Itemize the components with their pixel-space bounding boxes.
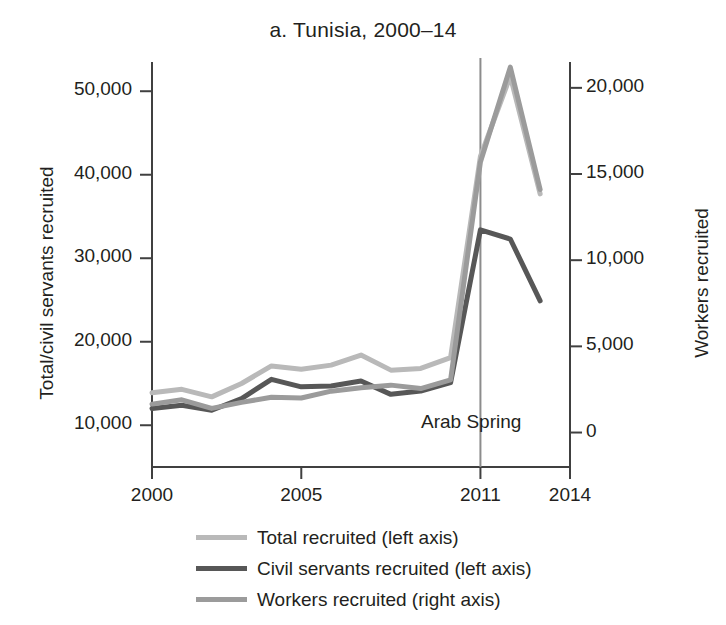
data-series-lines [152,67,540,410]
series-line-2 [152,67,540,408]
y-tick-label-left-1: 20,000 [12,329,132,351]
legend-item-2[interactable]: Workers recruited (right axis) [0,584,726,615]
y-tick-label-left-3: 40,000 [12,162,132,184]
series-line-1 [152,230,540,410]
legend-swatch-0 [196,535,247,540]
annotation-arab-spring-label: Arab Spring [421,411,521,433]
y-tick-label-right-4: 20,000 [586,75,706,97]
x-tick-label-3: 2014 [510,484,630,506]
y-tick-label-right-2: 10,000 [586,247,706,269]
legend-label-2: Workers recruited (right axis) [257,589,501,611]
y-tick-label-right-0: 0 [586,420,706,442]
chart-figure: a. Tunisia, 2000–14 Total/civil servants… [0,0,726,625]
legend-swatch-1 [196,566,247,571]
x-tick-label-1: 2005 [241,484,361,506]
y-tick-label-right-1: 5,000 [586,333,706,355]
y-tick-label-left-4: 50,000 [12,78,132,100]
y-tick-label-left-0: 10,000 [12,412,132,434]
legend-label-0: Total recruited (left axis) [257,527,459,549]
y-tick-label-right-3: 15,000 [586,161,706,183]
series-line-0 [152,76,540,397]
legend-item-1[interactable]: Civil servants recruited (left axis) [0,553,726,584]
x-tick-label-0: 2000 [92,484,212,506]
legend-label-1: Civil servants recruited (left axis) [257,558,532,580]
legend-item-0[interactable]: Total recruited (left axis) [0,522,726,553]
legend-swatch-2 [196,597,247,602]
chart-title: a. Tunisia, 2000–14 [0,18,726,42]
y-tick-label-left-2: 30,000 [12,245,132,267]
chart-legend: Total recruited (left axis)Civil servant… [0,522,726,615]
